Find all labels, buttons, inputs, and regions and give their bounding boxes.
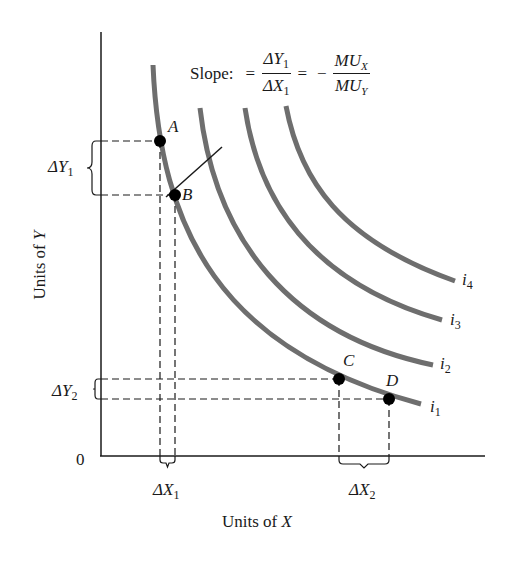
bracket-delta-y1	[87, 141, 101, 195]
slope-prefix: Slope:	[190, 64, 233, 84]
curve-i4	[286, 106, 455, 281]
guide-lines	[101, 141, 389, 456]
mu-numerator: MU	[335, 51, 361, 70]
slope-fraction-mu: MUX MUY	[333, 51, 370, 97]
label-delta-x1: ΔX1	[153, 481, 179, 501]
slope-minus: −	[317, 64, 327, 84]
label-point-a: A	[168, 118, 178, 135]
bracket-delta-x1	[160, 456, 175, 467]
point-c	[333, 373, 345, 385]
label-delta-y2: ΔY2	[52, 382, 77, 402]
label-curve-i2: i2	[440, 355, 451, 375]
slope-numerator: ΔY	[264, 49, 283, 68]
label-curve-i3: i3	[450, 311, 461, 331]
point-a	[154, 135, 166, 147]
slope-denominator: ΔX	[263, 76, 283, 95]
slope-formula: Slope: = ΔY1 ΔX1 = − MUX MUY	[190, 49, 370, 99]
slope-equals-2: =	[297, 64, 307, 84]
label-delta-x2: ΔX2	[349, 481, 375, 501]
slope-equals-1: =	[245, 64, 255, 84]
curve-i2	[200, 108, 433, 365]
y-axis-title: Units of Y	[30, 231, 50, 300]
label-curve-i4: i4	[462, 271, 473, 291]
label-delta-y1: ΔY1	[48, 158, 73, 178]
origin-label: 0	[76, 451, 85, 468]
mu-numerator-sub: X	[361, 60, 368, 72]
label-point-d: D	[386, 372, 398, 389]
bracket-delta-y2	[94, 379, 102, 399]
mu-denominator: MU	[335, 76, 361, 95]
mu-denominator-sub: Y	[361, 85, 367, 97]
bracket-delta-x2	[339, 456, 389, 468]
point-d	[383, 393, 395, 405]
x-axis-title: Units of X	[222, 513, 292, 530]
slope-denominator-sub: 1	[283, 84, 289, 98]
label-curve-i1: i1	[430, 398, 441, 418]
slope-numerator-sub: 1	[283, 57, 289, 71]
label-point-b: B	[182, 186, 192, 203]
label-point-c: C	[343, 352, 354, 369]
slope-fraction-delta: ΔY1 ΔX1	[261, 49, 291, 99]
point-b	[169, 189, 181, 201]
